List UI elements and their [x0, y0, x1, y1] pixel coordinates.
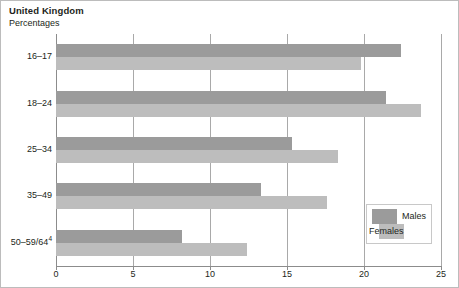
bar-males-50-59-64 — [56, 230, 182, 243]
legend-row-females: Females — [379, 224, 437, 239]
bar-females-35-49 — [56, 196, 327, 209]
chart-legend: Males Females — [366, 204, 432, 244]
chart-figure: United Kingdom Percentages 16–1718–2425–… — [0, 0, 459, 288]
bar-females-50-59-64 — [56, 243, 247, 256]
x-tick-label-5: 5 — [130, 269, 135, 279]
bar-females-25-34 — [56, 150, 338, 163]
legend-label-males: Males — [402, 211, 426, 221]
bar-males-25-34 — [56, 137, 292, 150]
chart-title: United Kingdom — [9, 5, 84, 16]
x-tick-label-20: 20 — [359, 269, 369, 279]
x-tick-label-0: 0 — [53, 269, 58, 279]
legend-label-females: Females — [369, 226, 404, 236]
legend-row-males: Males — [372, 209, 430, 224]
bar-males-35-49 — [56, 183, 261, 196]
y-axis-label-2: 18–24 — [1, 98, 52, 108]
y-axis-category-labels: 16–1718–2425–3435–4950–59/644 — [1, 34, 52, 266]
gridline-20 — [364, 34, 365, 266]
footnote-marker: 4 — [48, 235, 52, 242]
y-axis-label-3: 25–34 — [1, 144, 52, 154]
gridline-25 — [441, 34, 442, 266]
chart-subtitle: Percentages — [9, 18, 60, 28]
x-tick-label-10: 10 — [205, 269, 215, 279]
bar-males-18-24 — [56, 91, 386, 104]
bar-females-16-17 — [56, 57, 361, 70]
y-axis-label-1: 16–17 — [1, 51, 52, 61]
x-axis-line — [56, 266, 442, 267]
y-axis-label-5: 50–59/644 — [1, 237, 52, 247]
bar-females-18-24 — [56, 104, 421, 117]
y-axis-label-4: 35–49 — [1, 190, 52, 200]
bar-males-16-17 — [56, 44, 401, 57]
x-tick-label-25: 25 — [436, 269, 446, 279]
legend-swatch-males — [372, 209, 397, 224]
x-tick-label-15: 15 — [282, 269, 292, 279]
x-axis-tick-labels: 0510152025 — [56, 269, 441, 285]
